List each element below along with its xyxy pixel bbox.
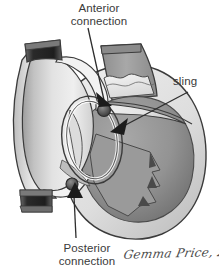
anatomical-figure: Anteriorconnection sling Posteriorconnec… — [0, 0, 219, 271]
valve-leaflets — [104, 74, 154, 98]
left-pouch-upper-cuff — [25, 40, 62, 62]
label-anterior-line1: Anterior — [78, 2, 119, 14]
illustration-canvas — [0, 0, 219, 271]
label-anterior-line2: connection — [71, 15, 128, 27]
label-posterior-line2: connection — [59, 255, 116, 267]
label-anterior-connection: Anteriorconnection — [57, 2, 141, 28]
left-pouch-lower-cuff — [20, 190, 52, 212]
label-sling: sling — [173, 75, 197, 88]
label-posterior-connection: Posteriorconnection — [41, 242, 133, 268]
artist-signature: Gemma Price, 2004 — [122, 244, 219, 261]
label-posterior-line1: Posterior — [64, 242, 111, 254]
